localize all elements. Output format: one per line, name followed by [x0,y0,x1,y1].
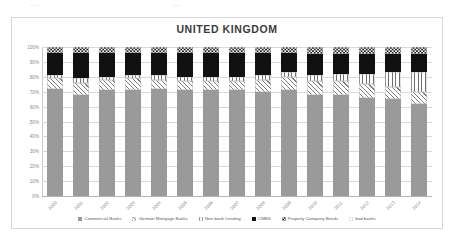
bar-segment [177,47,193,53]
stacked-bar[interactable] [307,47,323,196]
bar-segment [255,47,271,53]
x-tick-slot: 2011 [328,198,354,214]
x-tick-label: 2006 [203,200,219,216]
bar-slot [94,47,120,196]
x-tick-slot: 2004 [146,198,172,214]
legend-item[interactable]: bad banks [349,216,375,221]
bar-slot [276,47,302,196]
x-axis-ticks: 2000200120022003200420052006200720082009… [42,198,432,214]
bar-segment [203,77,219,81]
stacked-bar[interactable] [151,47,167,196]
stacked-bar[interactable] [255,47,271,196]
bar-segment [125,90,141,196]
bar-segment [73,47,89,53]
y-tick-label: 60% [30,104,39,109]
stacked-bar[interactable] [47,47,63,196]
y-tick-label: 50% [30,119,39,124]
legend-label: Commercial Banks [85,216,122,221]
chart-legend: Commercial BanksGerman Mortgage BanksNon… [12,216,442,221]
bar-segment [177,81,193,90]
x-tick-slot: 2008 [250,198,276,214]
y-tick-label: 10% [30,179,39,184]
stacked-bar[interactable] [333,47,349,196]
stacked-bar[interactable] [203,47,219,196]
x-tick-slot: 2010 [302,198,328,214]
x-tick-slot: 2005 [172,198,198,214]
bar-slot [302,47,328,196]
y-tick-label: 30% [30,149,39,154]
x-tick-label: 2002 [99,200,115,216]
plot-area: 0%10%20%30%40%50%60%70%80%90%100% [42,47,432,196]
stacked-bar[interactable] [385,47,401,196]
bar-slot [328,47,354,196]
stacked-bar[interactable] [177,47,193,196]
x-tick-label: 2009 [281,200,297,216]
bar-segment [411,72,427,91]
bar-slot [224,47,250,196]
bar-segment [255,53,271,75]
x-tick-slot: 2014 [406,198,432,214]
bar-segment [73,95,89,196]
bar-segment [151,47,167,53]
x-tick-slot: 2002 [94,198,120,214]
bar-slot [68,47,94,196]
stacked-bar[interactable] [411,47,427,196]
bar-slot [406,47,432,196]
bar-segment [203,47,219,53]
bar-segment [255,92,271,196]
bar-slot [172,47,198,196]
bar-segment [99,90,115,196]
legend-label: bad banks [355,216,375,221]
bar-segment [125,47,141,53]
bar-segment [411,47,427,54]
y-tick-label: 100% [27,45,39,50]
stacked-bar[interactable] [125,47,141,196]
bar-segment [333,47,349,54]
legend-item[interactable]: German Mortgage Banks [132,216,187,221]
stacked-bar[interactable] [99,47,115,196]
bar-segment [385,72,401,87]
legend-item[interactable]: Non-bank Lending [199,216,241,221]
bar-segment [203,90,219,196]
bar-segment [307,81,323,94]
bar-segment [99,80,115,90]
bar-segment [385,54,401,72]
bar-slot [354,47,380,196]
legend-swatch-icon [349,217,353,221]
legend-swatch-icon [132,217,136,221]
legend-label: Property Company Bonds [288,216,338,221]
bar-segment [255,75,271,79]
bar-segment [359,98,375,196]
legend-item[interactable]: Property Company Bonds [282,216,338,221]
bar-segment [359,84,375,97]
stacked-bar[interactable] [229,47,245,196]
stacked-bar[interactable] [281,47,297,196]
x-tick-label: 2010 [307,200,323,216]
stacked-bar[interactable] [73,47,89,196]
legend-item[interactable]: CMBS [252,216,271,221]
bar-slot [146,47,172,196]
y-tick-label: 70% [30,89,39,94]
bar-segment [99,47,115,53]
y-tick-label: 80% [30,74,39,79]
artifact-1: —— [173,2,182,7]
bar-segment [151,89,167,196]
legend-swatch-icon [78,217,82,221]
bar-segment [281,53,297,72]
bar-segment [73,78,89,82]
bar-segment [307,95,323,196]
bar-segment [73,83,89,95]
chart-title: UNITED KINGDOM [12,23,442,35]
y-tick-label: 20% [30,164,39,169]
bar-segment [281,77,297,90]
bar-segment [177,53,193,77]
legend-item[interactable]: Commercial Banks [78,216,121,221]
bar-slot [120,47,146,196]
x-tick-label: 2004 [151,200,167,216]
legend-swatch-icon [199,217,203,221]
bar-segment [307,47,323,54]
stacked-bar[interactable] [359,47,375,196]
bar-segment [359,74,375,84]
x-tick-slot: 2009 [276,198,302,214]
bar-segment [151,80,167,89]
